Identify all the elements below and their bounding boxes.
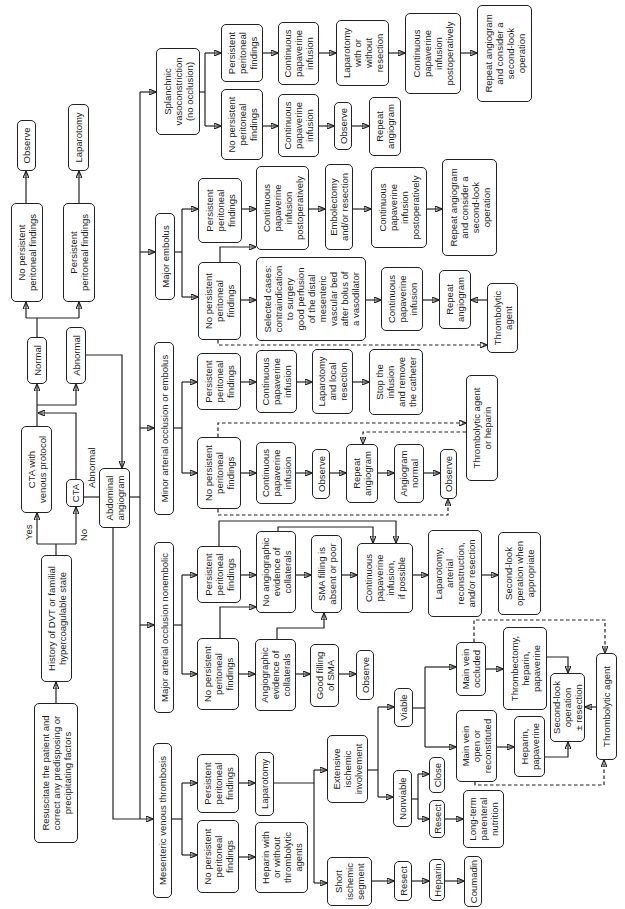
node-major-arterial-nonembolic: Major arterial occlusion nonembolic bbox=[154, 542, 174, 713]
node-mne-papaverine: Continuous papaverine infusion, if possi… bbox=[357, 543, 413, 613]
node-resect-nonviable: Resect bbox=[429, 800, 445, 838]
node-mne-no-collaterals: No angiographic evidence of collaterals bbox=[256, 531, 296, 613]
node-emb-np-selected-cases: Selected cases: contraindication to surg… bbox=[256, 257, 366, 341]
node-mvt-thrombolytic: Thrombolytic agent bbox=[596, 653, 617, 760]
node-heparin-papaverine: Heparin, papaverine bbox=[514, 716, 545, 777]
node-cta: CTA bbox=[66, 479, 84, 507]
node-no-persistent-findings-top: No persistent peritoneal findings bbox=[11, 203, 43, 302]
node-main-vein-occluded: Main vein occluded bbox=[456, 642, 486, 696]
management-flowchart: Yes No Abnormal Resuscitate the patient … bbox=[0, 0, 625, 909]
node-embolus-persistent: Persistent peritoneal findings bbox=[198, 178, 242, 243]
node-splanchnic-persistent: Persistent peritoneal findings bbox=[221, 24, 263, 82]
node-spl-np-repeat-angiogram: Repeat angiogram bbox=[369, 97, 401, 156]
node-second-look-resection: Second-look operation ± resection bbox=[550, 673, 585, 742]
node-mvt-extensive-ischemia: Extensive ischemic involvement bbox=[327, 735, 368, 803]
node-mne-second-look: Second-look operation when appropriate bbox=[498, 532, 541, 615]
node-persistent-findings-top: Persistent peritoneal findings bbox=[63, 203, 95, 302]
node-main-vein-open: Main vein open or reconstituted bbox=[456, 710, 497, 782]
node-spl-p-repeat-angiogram: Repeat angiogram and consider a second-l… bbox=[477, 5, 532, 102]
node-spl-p-papaverine: Continuous papaverine infusion bbox=[278, 22, 319, 85]
node-heparin-short: Heparin bbox=[429, 859, 445, 901]
node-spl-p-papaverine-postop: Continuous papaverine infusion postopera… bbox=[405, 13, 461, 94]
node-spl-np-observe: Observe bbox=[334, 102, 352, 150]
node-splanchnic-no-persistent: No persistent peritoneal findings bbox=[221, 89, 263, 160]
node-min-np-angiogram-normal: Angiogram normal bbox=[394, 444, 424, 503]
node-parenteral-nutrition: Long-term parenteral nutrition bbox=[463, 790, 504, 848]
node-observe-top: Observe bbox=[17, 120, 36, 171]
node-major-embolus: Major embolus bbox=[155, 213, 175, 300]
node-min-np-observe: Observe bbox=[312, 449, 330, 499]
node-min-p-laparotomy: Laparotomy and local resection bbox=[312, 349, 353, 414]
node-minor-no-persistent: No persistent peritoneal findings bbox=[197, 437, 241, 509]
node-min-p-papaverine: Continuous papaverine infusion bbox=[256, 350, 297, 413]
node-emb-p-papaverine-postop: Continuous papaverine infusion postopera… bbox=[256, 166, 309, 250]
node-minor-persistent: Persistent peritoneal findings bbox=[197, 353, 241, 410]
node-mvt-heparin: Heparin with or without thrombolytic age… bbox=[255, 822, 308, 893]
node-history: History of DVT or familial hypercoagulab… bbox=[41, 555, 72, 682]
node-abdominal-angiogram: Abdominal angiogram bbox=[99, 468, 130, 528]
node-close: Close bbox=[429, 757, 445, 793]
node-normal: Normal bbox=[27, 337, 47, 384]
node-min-np-repeat-angiogram: Repeat angiogram bbox=[346, 444, 378, 503]
node-emb-np-thrombolytic: Thrombolytic agent bbox=[487, 283, 518, 353]
node-minor-arterial-occlusion: Minor arterial occlusion or embolus bbox=[154, 342, 174, 515]
node-min-np-observe-2: Observe bbox=[440, 449, 457, 499]
node-resuscitate: Resuscitate the patient and correct any … bbox=[34, 703, 78, 843]
edge-label-no: No bbox=[78, 529, 89, 541]
node-splanchnic-vasoconstriction: Splanchnic vasoconstriction (no occlusio… bbox=[156, 48, 200, 135]
node-mvt-no-persistent: No persistent peritoneal findings bbox=[197, 820, 239, 893]
node-emb-p-repeat-angiogram: Repeat angiogram and consider a second-l… bbox=[442, 159, 497, 256]
node-mvt-persistent: Persistent peritoneal findings bbox=[197, 754, 239, 813]
node-mne-laparotomy: Laparotomy, arterial reconstruction, and… bbox=[428, 530, 482, 617]
node-spl-np-papaverine: Continuous papaverine infusion bbox=[278, 94, 319, 157]
node-min-thrombolytic-or-heparin: Thrombolytic agent or heparin bbox=[466, 375, 498, 481]
node-min-p-stop-infusion: Stop the infusion and remove the cathete… bbox=[369, 349, 423, 415]
node-laparotomy-top: Laparotomy bbox=[68, 104, 89, 171]
node-mne-no-persistent: No persistent peritoneal findings bbox=[197, 638, 239, 710]
node-abnormal: Abnormal bbox=[66, 327, 86, 384]
node-mne-good-sma: Good filling of SMA bbox=[310, 644, 339, 707]
node-mne-sma-poor: SMA filling is absent or poor bbox=[311, 535, 342, 613]
node-spl-p-laparotomy: Laparotomy with or without resection bbox=[336, 20, 389, 86]
node-mne-observe: Observe bbox=[356, 650, 374, 700]
node-resect-short: Resect bbox=[394, 861, 412, 901]
node-coumadin: Coumadin bbox=[464, 856, 482, 907]
node-mne-collaterals: Angiographic evidence of collaterals bbox=[255, 639, 296, 711]
node-nonviable: Nonviable bbox=[393, 770, 412, 827]
node-mesenteric-venous-thrombosis: Mesenteric venous thrombosis bbox=[153, 743, 172, 898]
node-emb-np-repeat-angiogram: Repeat angiogram bbox=[439, 270, 471, 329]
node-embolus-no-persistent: No persistent peritoneal findings bbox=[198, 262, 241, 340]
node-viable: Viable bbox=[394, 688, 413, 727]
edge-label-abnormal: Abnormal bbox=[86, 447, 97, 488]
node-mne-persistent: Persistent peritoneal findings bbox=[197, 546, 241, 603]
node-min-np-papaverine: Continuous papaverine infusion bbox=[256, 442, 296, 504]
node-emb-p-papaverine-postop-2: Continuous papaverine infusion postopera… bbox=[371, 167, 427, 248]
node-emb-p-embolectomy: Embolectomy and/or resection bbox=[325, 164, 353, 250]
node-mvt-short-segment: Short ischemic segment bbox=[327, 857, 372, 906]
node-cta-venous: CTA with venous protocol bbox=[21, 426, 52, 513]
node-mvt-laparotomy: Laparotomy bbox=[255, 752, 274, 816]
edge-label-yes: Yes bbox=[23, 525, 34, 541]
node-emb-np-papaverine: Continuous papaverine infusion bbox=[381, 267, 423, 331]
node-thrombectomy: Thrombectomy, heparin, papaverine bbox=[503, 627, 547, 710]
